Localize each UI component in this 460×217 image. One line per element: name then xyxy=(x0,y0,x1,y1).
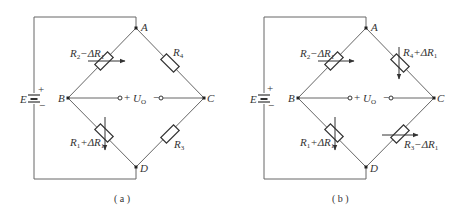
output-minus-label-b: − xyxy=(383,91,389,103)
output-label-a: UO xyxy=(133,92,146,106)
output-plus-label-a: + xyxy=(124,91,130,103)
node-label-b-b: B xyxy=(288,92,295,104)
resistor-label-ab-a: R2−ΔR1 xyxy=(69,47,105,61)
node-b-b xyxy=(297,97,300,100)
node-c-b xyxy=(433,97,436,100)
node-d-b xyxy=(365,166,368,169)
node-d-a xyxy=(135,166,138,169)
caption-b: ( b ) xyxy=(332,193,349,205)
node-b-a xyxy=(67,97,70,100)
resistor-label-cd-b: R3−ΔR1 xyxy=(403,138,439,152)
bridge-circuit-a: E + − R2−ΔR1 R4 R1+ΔR1 R3 + UO − xyxy=(19,17,215,205)
node-a-a xyxy=(135,27,138,30)
output-minus-label-a: − xyxy=(153,91,159,103)
source-label-a: E xyxy=(19,93,27,105)
node-label-d-a: D xyxy=(139,162,148,174)
output-terminal-minus-a xyxy=(159,96,163,100)
node-label-a-a: A xyxy=(140,21,148,33)
node-label-b-a: B xyxy=(58,92,65,104)
source-label-b: E xyxy=(249,93,257,105)
resistor-label-bd-a: R1+ΔR1 xyxy=(69,136,105,150)
node-label-c-b: C xyxy=(437,92,445,104)
bridge-circuit-b: E + − R2−ΔR1 R4+ΔR1 R1+ΔR1 R3−ΔR1 + UO − xyxy=(249,17,445,205)
resistor-label-ac-a: R4 xyxy=(172,46,184,60)
node-label-d-b: D xyxy=(369,162,378,174)
resistor-label-ac-b: R4+ΔR1 xyxy=(402,46,438,60)
node-label-a-b: A xyxy=(370,21,378,33)
output-terminal-plus-a xyxy=(118,96,122,100)
bridge-circuits-figure: E + − R2−ΔR1 R4 R1+ΔR1 R3 + UO − xyxy=(0,0,460,217)
output-terminal-plus-b xyxy=(348,96,352,100)
resistor-label-bd-b: R1+ΔR1 xyxy=(299,136,335,150)
resistor-label-cd-a: R3 xyxy=(173,138,185,152)
resistor-label-ab-b: R2−ΔR1 xyxy=(299,47,335,61)
output-terminal-minus-b xyxy=(389,96,393,100)
node-a-b xyxy=(365,27,368,30)
source-minus-a: − xyxy=(39,99,45,111)
node-label-c-a: C xyxy=(207,92,215,104)
caption-a: ( a ) xyxy=(114,193,130,205)
node-c-a xyxy=(203,97,206,100)
output-plus-label-b: + xyxy=(354,91,360,103)
source-minus-b: − xyxy=(268,99,274,111)
source-plus-b: + xyxy=(267,82,273,94)
output-label-b: UO xyxy=(363,92,376,106)
source-plus-a: + xyxy=(38,83,44,95)
